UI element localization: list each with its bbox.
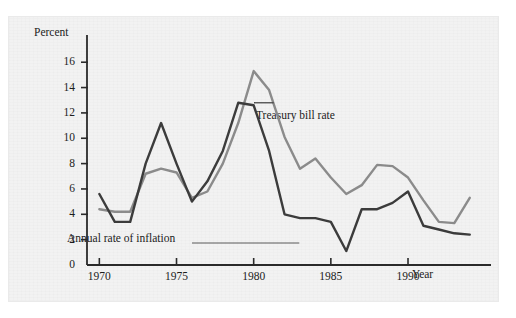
series-line	[99, 103, 469, 251]
x-tick-label: 1975	[155, 270, 199, 282]
chart-figure: Percent Year Treasury bill rate Annual r…	[9, 17, 498, 301]
y-tick-label: 6	[49, 182, 75, 194]
y-tick-label: 10	[49, 131, 75, 143]
y-tick-label: 16	[49, 55, 75, 67]
x-tick-label: 1980	[232, 270, 276, 282]
y-tick-label: 14	[49, 81, 75, 93]
x-tick-label: 1990	[386, 270, 430, 282]
x-tick-label: 1985	[309, 270, 353, 282]
series-line	[99, 71, 469, 223]
x-tick-label: 1970	[77, 270, 121, 282]
y-tick-label: 0	[49, 258, 75, 270]
y-tick-label: 8	[49, 157, 75, 169]
y-tick-label: 12	[49, 106, 75, 118]
line-chart-plot	[9, 17, 498, 301]
y-tick-label: 4	[49, 207, 75, 219]
y-tick-label: 2	[49, 233, 75, 245]
